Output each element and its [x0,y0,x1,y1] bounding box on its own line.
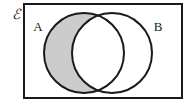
venn-diagram-figure: ℰ A B [0,0,192,108]
set-a-label: A [33,19,43,34]
venn-diagram-canvas: ℰ A B [0,0,192,108]
set-b-label: B [154,19,163,34]
